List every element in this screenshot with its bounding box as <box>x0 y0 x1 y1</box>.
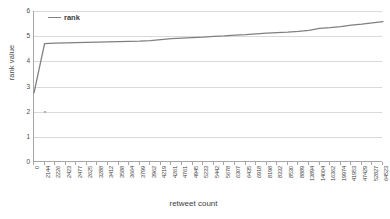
x-axis-tick-mark <box>54 162 55 165</box>
x-axis-tick-label: 19974 <box>342 166 348 181</box>
x-axis-tick-label: 2423 <box>67 166 73 178</box>
x-axis-tick-mark <box>75 162 76 165</box>
x-axis-tick-mark <box>266 162 267 165</box>
x-axis-tick-mark <box>192 162 193 165</box>
x-axis-tick-mark <box>107 162 108 165</box>
x-axis-tick-label: 6307 <box>236 166 242 178</box>
x-axis-tick-mark <box>234 162 235 165</box>
x-axis-title: retweet count <box>0 199 387 208</box>
x-axis-tick-mark <box>213 162 214 165</box>
x-axis-tick-label: 16362 <box>331 166 337 181</box>
chart-legend: rank <box>46 14 82 22</box>
x-axis-tick-mark <box>181 162 182 165</box>
x-axis-tick-mark <box>33 162 34 165</box>
x-axis-tick-label: 4219 <box>162 166 168 178</box>
x-axis-tick-mark <box>96 162 97 165</box>
plot-area <box>33 11 382 162</box>
x-axis-tick-label: 6918 <box>257 166 263 178</box>
x-axis-tick-labels: 0214422262423247726253288341235883664379… <box>33 166 382 198</box>
x-axis-tick-mark <box>223 162 224 165</box>
x-axis-tick-mark <box>276 162 277 165</box>
x-axis-tick-label: 8198 <box>268 166 274 178</box>
x-axis-tick-mark <box>319 162 320 165</box>
x-axis-tick-mark <box>308 162 309 165</box>
y-axis-tick-label: 3 <box>16 83 30 90</box>
y-axis-tick-labels: 0123456 <box>16 0 30 219</box>
x-axis-tick-label: 13894 <box>310 166 316 181</box>
x-axis-tick-label: 5442 <box>215 166 221 178</box>
x-axis-tick-mark <box>65 162 66 165</box>
x-axis-tick-label: 3799 <box>141 166 147 178</box>
x-axis-tick-label: 0 <box>35 166 41 169</box>
x-axis-tick-mark <box>287 162 288 165</box>
x-axis-tick-mark <box>382 162 383 165</box>
x-axis-tick-label: 2477 <box>78 166 84 178</box>
x-axis-tick-label: 6435 <box>247 166 253 178</box>
x-axis-tick-label: 2625 <box>88 166 94 178</box>
x-axis-tick-label: 5678 <box>226 166 232 178</box>
x-axis-tick-label: 52827 <box>374 166 380 181</box>
x-axis-tick-mark <box>118 162 119 165</box>
x-axis-tick-mark <box>297 162 298 165</box>
x-axis-tick-mark <box>340 162 341 165</box>
x-axis-tick-mark <box>44 162 45 165</box>
y-axis-title: rank value <box>7 28 16 98</box>
x-axis-tick-label: 4261 <box>173 166 179 178</box>
series-rank-line <box>34 11 383 162</box>
stray-data-point <box>44 111 46 113</box>
x-axis-tick-mark <box>329 162 330 165</box>
y-axis-tick-label: 5 <box>16 33 30 40</box>
x-axis-tick-mark <box>86 162 87 165</box>
x-axis-tick-label: 3962 <box>152 166 158 178</box>
x-axis-tick-label: 3288 <box>99 166 105 178</box>
x-axis-tick-mark <box>128 162 129 165</box>
x-axis-tick-mark <box>160 162 161 165</box>
x-axis-tick-mark <box>245 162 246 165</box>
x-axis-tick-label: 4761 <box>183 166 189 178</box>
x-axis-tick-label: 47429 <box>363 166 369 181</box>
legend-swatch-rank <box>48 17 61 18</box>
legend-label-rank: rank <box>64 14 80 22</box>
x-axis-tick-mark <box>350 162 351 165</box>
x-axis-tick-label: 64523 <box>384 166 390 181</box>
y-axis-tick-label: 2 <box>16 108 30 115</box>
x-axis-tick-label: 3588 <box>120 166 126 178</box>
y-axis-tick-label: 0 <box>16 159 30 166</box>
x-axis-tick-mark <box>170 162 171 165</box>
x-axis-tick-mark <box>149 162 150 165</box>
x-axis-tick-label: 8530 <box>289 166 295 178</box>
x-axis-tick-label: 3412 <box>109 166 115 178</box>
x-axis-tick-label: 8889 <box>300 166 306 178</box>
y-axis-tick-label: 1 <box>16 134 30 141</box>
x-axis-tick-mark <box>139 162 140 165</box>
x-axis-tick-label: 14004 <box>321 166 327 181</box>
x-axis-tick-mark <box>202 162 203 165</box>
x-axis-tick-label: 41953 <box>352 166 358 181</box>
x-axis-tick-mark <box>361 162 362 165</box>
x-axis-tick-label: 2226 <box>56 166 62 178</box>
x-axis-tick-label: 4945 <box>194 166 200 178</box>
y-axis-tick-label: 4 <box>16 58 30 65</box>
x-axis-tick-mark <box>371 162 372 165</box>
x-axis-tick-label: 3664 <box>130 166 136 178</box>
x-axis-tick-label: 5233 <box>204 166 210 178</box>
y-axis-tick-label: 6 <box>16 8 30 15</box>
x-axis-tick-label: 2144 <box>46 166 52 178</box>
x-axis-tick-mark <box>255 162 256 165</box>
x-axis-tick-label: 8332 <box>278 166 284 178</box>
